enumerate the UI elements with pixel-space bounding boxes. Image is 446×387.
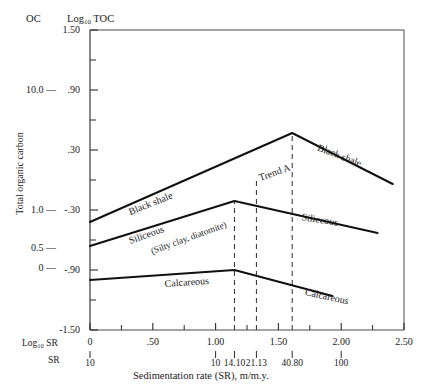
curve-calcareous <box>90 270 332 296</box>
axis-frame <box>90 30 404 330</box>
x-tick-label: 1.50 <box>258 337 298 347</box>
y-tick-label-toc: -1.50 <box>46 325 80 335</box>
chart-figure: OC Log10 TOC Total organic carbon Log10 … <box>0 0 446 387</box>
x-tick-label: 2.00 <box>321 337 361 347</box>
sr-axis-ticks <box>90 351 341 358</box>
y-tick-label-toc: 1.50 <box>46 25 80 35</box>
sr-tick-label: 10 <box>70 359 110 369</box>
y-tick-label-oc: 0.5 — <box>0 243 56 253</box>
y-tick-label-oc: 1.0 — <box>0 205 56 215</box>
y-tick-label-toc: .30 <box>46 145 80 155</box>
sr-tick-label: 21.13 <box>236 359 276 369</box>
x-tick-label: 2.50 <box>384 337 424 347</box>
y-tick-label-oc: 0 — <box>0 263 56 273</box>
x-tick-label: 1.00 <box>196 337 236 347</box>
sr-tick-label: 100 <box>321 359 361 369</box>
x-tick-label: 0 <box>70 337 110 347</box>
y-axis-ticks <box>90 30 98 330</box>
sr-tick-label: 40.80 <box>272 359 312 369</box>
x-axis-ticks <box>90 323 404 330</box>
y-tick-label-oc: 10.0 — <box>0 85 56 95</box>
x-tick-label: .50 <box>133 337 173 347</box>
